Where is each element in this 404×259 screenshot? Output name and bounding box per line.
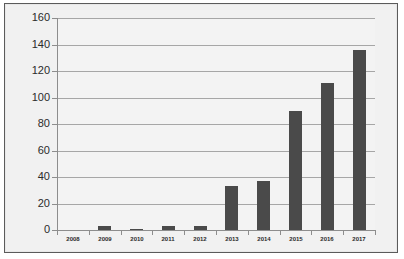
y-axis-tick-label: 100 <box>5 92 50 104</box>
gridline <box>57 18 375 19</box>
y-axis-tick-label: 20 <box>5 198 50 210</box>
y-axis-tick-label-text: 100 <box>8 92 50 103</box>
y-axis-tick-label: 160 <box>5 12 50 24</box>
bar <box>162 226 175 230</box>
bar <box>257 181 270 230</box>
x-axis-tick-mark <box>375 231 376 235</box>
y-axis-tick-label: 60 <box>5 145 50 157</box>
chart-plot-wrapper: 020406080100120140160 200820092010201120… <box>5 4 397 252</box>
y-axis-tick-label-text: 80 <box>8 118 50 129</box>
y-axis-tick-label-text: 20 <box>8 198 50 209</box>
y-axis-tick-label-text: 40 <box>8 171 50 182</box>
x-axis-tick-mark <box>121 231 122 235</box>
bar <box>194 226 207 230</box>
y-axis-tick-label-text: 160 <box>8 12 50 23</box>
y-axis-tick-label: 0 <box>5 224 50 236</box>
x-axis-tick-label: 2017 <box>343 236 375 242</box>
x-axis-tick-mark <box>343 231 344 235</box>
y-axis-tick-label-text: 140 <box>8 39 50 50</box>
x-axis-tick-label: 2012 <box>184 236 216 242</box>
y-axis-tick-label-text: 120 <box>8 65 50 76</box>
x-axis-tick-label: 2008 <box>57 236 89 242</box>
y-axis-tick-label: 140 <box>5 39 50 51</box>
x-axis-tick-mark <box>184 231 185 235</box>
bar <box>98 226 111 230</box>
y-axis-tick-label: 80 <box>5 118 50 130</box>
bar <box>225 186 238 230</box>
x-axis-tick-label: 2011 <box>152 236 184 242</box>
x-axis-tick-mark <box>248 231 249 235</box>
x-axis-tick-label: 2015 <box>280 236 312 242</box>
bar <box>289 111 302 230</box>
y-axis-tick-label-text: 60 <box>8 145 50 156</box>
x-axis-tick-mark <box>152 231 153 235</box>
y-axis-tick-label: 120 <box>5 65 50 77</box>
x-axis-tick-mark <box>311 231 312 235</box>
bar <box>130 229 143 230</box>
bar <box>321 83 334 230</box>
x-axis-tick-mark <box>57 231 58 235</box>
x-axis-tick-mark <box>280 231 281 235</box>
x-axis-tick-mark <box>89 231 90 235</box>
x-axis-tick-label: 2010 <box>121 236 153 242</box>
x-axis-tick-label: 2016 <box>311 236 343 242</box>
y-axis-tick-label: 40 <box>5 171 50 183</box>
x-axis-tick-mark <box>216 231 217 235</box>
y-axis-tick-label-text: 0 <box>8 224 50 235</box>
x-axis-tick-label: 2009 <box>89 236 121 242</box>
gridline <box>57 71 375 72</box>
x-axis-tick-label: 2013 <box>216 236 248 242</box>
y-axis-line <box>57 18 58 231</box>
chart-frame: 020406080100120140160 200820092010201120… <box>4 3 398 253</box>
gridline <box>57 45 375 46</box>
bar <box>353 50 366 230</box>
x-axis-tick-label: 2014 <box>248 236 280 242</box>
